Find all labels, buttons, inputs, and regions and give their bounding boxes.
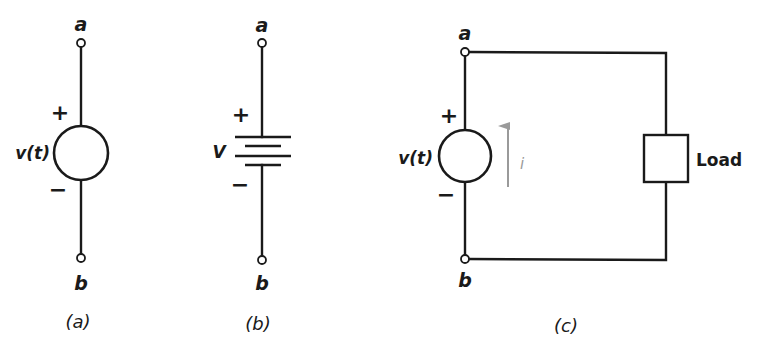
- battery-icon: [235, 137, 291, 165]
- minus-sign: −: [49, 177, 67, 202]
- caption-c: (c): [554, 315, 578, 336]
- panel-c: i a b + − v(t) Load (c): [398, 22, 742, 336]
- voltage-source-icon: [439, 130, 491, 182]
- voltage-source-icon: [54, 126, 108, 180]
- source-label: V: [212, 142, 227, 162]
- terminal-a-label: a: [75, 13, 88, 35]
- panel-b: a b + − V (b): [212, 14, 291, 334]
- terminal-b-label: b: [255, 272, 269, 294]
- wire-bottom: [469, 182, 666, 260]
- terminal-a-icon: [461, 48, 469, 56]
- current-label: i: [520, 155, 525, 173]
- wire-top: [469, 52, 666, 135]
- terminal-a-label: a: [256, 14, 269, 36]
- load-box-icon: [644, 135, 688, 182]
- terminal-a-icon: [77, 39, 85, 47]
- terminal-b-icon: [258, 256, 266, 264]
- source-label: v(t): [398, 148, 433, 168]
- terminal-b-label: b: [74, 272, 88, 294]
- minus-sign: −: [437, 182, 455, 207]
- terminal-b-label: b: [458, 269, 472, 291]
- source-label: v(t): [15, 143, 50, 163]
- plus-sign: +: [440, 103, 458, 128]
- minus-sign: −: [231, 172, 249, 197]
- caption-b: (b): [245, 313, 270, 334]
- terminal-a-icon: [258, 39, 266, 47]
- terminal-a-label: a: [459, 22, 472, 44]
- circuit-diagram: a b + − v(t) (a) a b + − V (b): [0, 0, 758, 357]
- terminal-b-icon: [77, 254, 85, 262]
- caption-a: (a): [65, 311, 90, 332]
- load-label: Load: [696, 150, 742, 170]
- plus-sign: +: [51, 100, 69, 125]
- terminal-b-icon: [461, 255, 469, 263]
- panel-a: a b + − v(t) (a): [15, 13, 108, 332]
- plus-sign: +: [232, 102, 250, 127]
